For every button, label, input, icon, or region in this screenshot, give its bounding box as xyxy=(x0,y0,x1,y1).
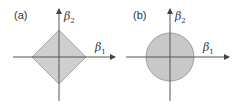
panel-b-label: (b) xyxy=(133,9,146,21)
panel-a-label: (a) xyxy=(14,9,27,21)
diagram-canvas: (a) β2 β1 (b) β2 β1 xyxy=(0,0,239,105)
beta1-label: β1 xyxy=(94,41,106,56)
panel-a: (a) β2 β1 xyxy=(13,9,115,101)
beta2-label: β2 xyxy=(63,10,75,25)
beta2-label: β2 xyxy=(174,10,186,25)
panel-b: (b) β2 β1 xyxy=(126,9,229,101)
beta1-label: β1 xyxy=(202,41,214,56)
